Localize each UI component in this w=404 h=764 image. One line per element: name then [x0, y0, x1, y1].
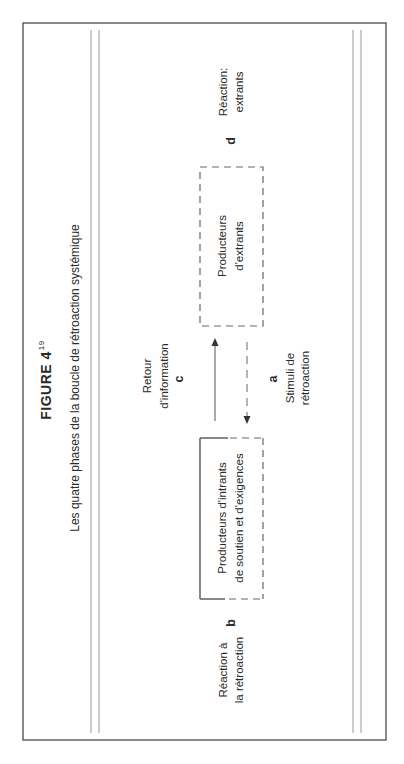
output-producers-line-2: d'extrants — [233, 221, 245, 271]
phase-b-letter: b — [224, 619, 238, 627]
phase-c-letter: c — [172, 375, 186, 382]
phase-b-line-2: la rétroaction — [233, 637, 245, 703]
input-producers-line-1: Producteurs d'intrants — [216, 462, 228, 574]
arrowhead-up-icon — [212, 338, 219, 346]
phase-c-line-2: d'information — [158, 343, 170, 408]
phase-c-line-1: Retour — [141, 359, 153, 394]
phase-d-line-2: extrants — [233, 71, 245, 112]
phase-d-letter: d — [224, 137, 238, 145]
phase-a-line-2: rétroaction — [299, 351, 311, 405]
arrow-information-return — [212, 338, 219, 421]
input-producers-line-2: de soutien et d'exigences — [233, 453, 245, 583]
figure-title-text: FIGURE 4 — [38, 351, 54, 420]
phase-d-line-1: Réaction: — [217, 68, 229, 117]
phase-a-letter: a — [266, 374, 280, 382]
figure-canvas: FIGURE 419 Les quatre phases de la boucl… — [0, 0, 404, 764]
figure-subtitle: Les quatre phases de la boucle de rétroa… — [68, 224, 82, 532]
input-producers-box — [200, 438, 263, 599]
output-producers-line-1: Producteurs — [216, 215, 228, 277]
arrowhead-down-icon — [244, 416, 251, 424]
arrow-feedback-stimuli — [244, 342, 251, 424]
output-producers-box — [200, 167, 263, 326]
phase-b-line-1: Réaction à — [217, 642, 229, 698]
phase-a-line-1: Stimuli de — [284, 353, 296, 404]
figure-title-superscript: 19 — [37, 340, 46, 350]
figure-title: FIGURE 419 — [37, 340, 54, 420]
